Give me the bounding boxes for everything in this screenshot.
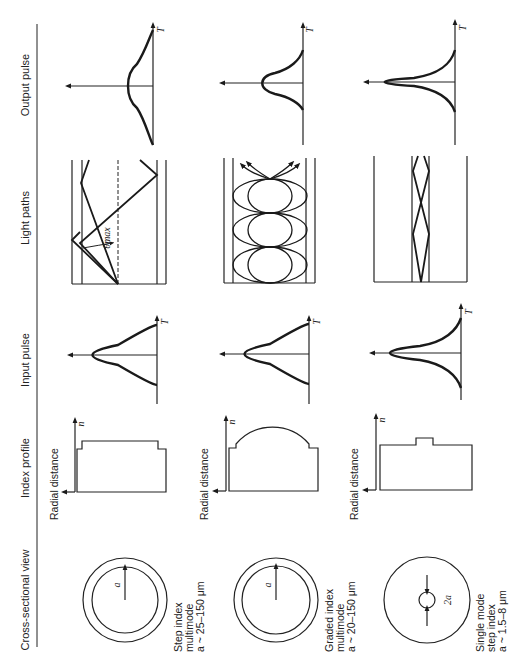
index-profile-step: Radial distance n [48,420,166,520]
core-diameter-label: 2a [442,595,453,605]
radius-label: a [111,583,122,588]
input-pulse-graded: T [222,318,322,404]
caption-line-3: a ~ 25–150 μm [194,581,206,652]
index-profile-single-mode: Radial distance n [348,416,472,520]
output-pulse-graded: T [222,25,315,145]
theta-max-label: θmax [101,227,112,249]
t-axis-label: T [311,318,322,325]
caption-line-3: a ~ 1.5–8 μm [496,590,508,652]
index-profile-graded: Radial distance n [198,418,318,520]
t-axis-label: T [457,24,468,31]
header-cross-sectional-view: Cross-sectional view [19,550,31,651]
radial-distance-label: Radial distance [348,448,360,520]
t-axis-label: T [155,26,166,33]
n-axis-label: n [75,422,86,427]
header-light-paths: Light paths [19,191,31,245]
row-step-index-multimode: a Step index multimode a ~ 25–150 μm Rad… [48,25,206,652]
light-paths-graded [224,158,315,283]
radius-label: a [262,583,273,588]
n-axis-label: n [226,420,237,425]
cross-section-single-mode: 2a Single mode step index a ~ 1.5–8 μm [384,557,508,652]
caption-line-3: a ~ 20–150 μm [345,581,357,652]
light-paths-single-mode [374,156,467,282]
input-pulse-step: T [70,318,170,404]
row-graded-index-multimode: a Graded index multimode a ~ 20–150 μm R… [198,25,357,652]
header-index-profile: Index profile [19,438,31,498]
header-output-pulse: Output pulse [19,54,31,116]
light-paths-step: θmax [72,160,166,284]
t-axis-label: T [304,26,315,33]
n-axis-label: n [376,418,387,423]
cross-section-step-index: a Step index multimode a ~ 25–150 μm [83,558,206,652]
output-pulse-step: T [68,25,166,145]
cross-section-graded-index: a Graded index multimode a ~ 20–150 μm [234,558,357,652]
t-axis-label: T [159,318,170,325]
radial-distance-label: Radial distance [48,448,60,520]
radial-distance-label: Radial distance [198,448,210,520]
header-input-pulse: Input pulse [19,333,31,387]
t-axis-label: T [463,308,474,315]
row-single-mode-step-index: 2a Single mode step index a ~ 1.5–8 μm R… [348,22,508,652]
output-pulse-single-mode: T [366,22,468,145]
column-headers: Cross-sectional view Index profile Input… [19,24,37,650]
fiber-types-diagram: Cross-sectional view Index profile Input… [0,0,518,662]
input-pulse-single-mode: T [372,306,474,400]
